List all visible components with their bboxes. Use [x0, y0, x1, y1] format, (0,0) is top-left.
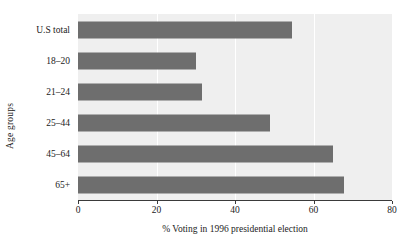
x-axis-tick-mark — [314, 201, 315, 204]
x-axis-tick-label: 20 — [152, 205, 162, 215]
y-axis-tick-label: 45–64 — [46, 149, 70, 159]
gridline — [235, 14, 236, 200]
x-axis-ticks: 020406080 — [78, 201, 392, 221]
gridline — [157, 14, 158, 200]
y-axis-title: Age groups — [0, 0, 20, 252]
plot-area — [78, 14, 392, 200]
gridline — [392, 14, 393, 200]
y-axis-tick-label: 65+ — [55, 180, 70, 190]
x-axis-tick-label: 60 — [309, 205, 319, 215]
x-axis-tick-label: 80 — [387, 205, 397, 215]
y-axis-tick-label: 25–44 — [46, 118, 70, 128]
x-axis-tick-label: 0 — [76, 205, 81, 215]
bar-chart-figure: Age groups U.S total18–2021–2425–4445–64… — [0, 0, 404, 252]
bar — [78, 114, 270, 131]
bar — [78, 145, 333, 162]
y-axis-tick-label: U.S total — [36, 25, 70, 35]
x-axis-tick-mark — [78, 201, 79, 204]
x-axis-tick-mark — [157, 201, 158, 204]
bar — [78, 83, 202, 100]
gridline — [314, 14, 315, 200]
bar — [78, 52, 196, 69]
x-axis-tick-mark — [392, 201, 393, 204]
y-axis-tick-label: 21–24 — [46, 87, 70, 97]
x-axis-tick-label: 40 — [230, 205, 240, 215]
y-axis-tick-labels: U.S total18–2021–2425–4445–6465+ — [18, 14, 74, 200]
x-axis-title: % Voting in 1996 presidential election — [78, 224, 392, 234]
bar — [78, 176, 344, 193]
x-axis-tick-mark — [235, 201, 236, 204]
y-axis-title-text: Age groups — [5, 103, 15, 149]
bar — [78, 21, 292, 38]
y-axis-tick-label: 18–20 — [46, 56, 70, 66]
